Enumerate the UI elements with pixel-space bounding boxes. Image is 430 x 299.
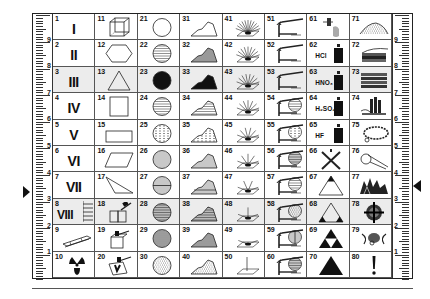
ruler-tick bbox=[36, 215, 46, 216]
ruler-tick bbox=[402, 172, 409, 173]
ruler-tick bbox=[36, 220, 43, 221]
ruler-tick bbox=[402, 71, 409, 72]
ruler-tick bbox=[36, 260, 43, 261]
symbol-cell-8: 8VIII bbox=[53, 199, 95, 225]
ruler-tick bbox=[402, 87, 409, 88]
symbol-cell-22: 22 bbox=[138, 40, 180, 66]
symbol-cell-65: 65HF bbox=[307, 120, 349, 146]
symbol-cell-28: 28 bbox=[138, 199, 180, 225]
ruler-tick bbox=[402, 273, 409, 274]
symbol-cell-11: 11 bbox=[95, 14, 137, 40]
ruler-tick bbox=[36, 31, 43, 32]
symbol-cell-34: 34 bbox=[180, 93, 222, 119]
ruler-tick bbox=[399, 29, 409, 30]
ruler-label: 2 bbox=[394, 222, 398, 229]
roman-numeral-label: IV bbox=[53, 100, 94, 116]
left-ruler: 987654321 bbox=[33, 14, 53, 278]
symbol-cell-21: 21 bbox=[138, 14, 180, 40]
symbol-cell-23: 23 bbox=[138, 67, 180, 93]
ruler-label: 7 bbox=[394, 89, 398, 96]
ruler-label: 3 bbox=[394, 195, 398, 202]
ruler-tick bbox=[402, 239, 409, 240]
symbol-cell-36: 36 bbox=[180, 146, 222, 172]
symbol-cell-6: 6VI bbox=[53, 146, 95, 172]
ruler-tick bbox=[402, 37, 409, 38]
ruler-tick bbox=[36, 162, 46, 163]
roman-numeral-label: I bbox=[53, 21, 94, 37]
ruler-tick bbox=[402, 271, 409, 272]
symbol-cell-56: 56 bbox=[265, 146, 307, 172]
symbol-cell-78: 78 bbox=[350, 199, 392, 225]
symbol-cell-45: 45 bbox=[223, 120, 265, 146]
symbol-cell-72: 72 bbox=[350, 40, 392, 66]
ruler-tick bbox=[402, 124, 409, 125]
ruler-tick bbox=[402, 119, 409, 120]
ruler-tick bbox=[402, 130, 409, 131]
ruler-tick bbox=[402, 183, 409, 184]
ruler-tick bbox=[402, 212, 409, 213]
ruler-tick bbox=[402, 223, 409, 224]
ruler-tick bbox=[36, 114, 43, 115]
ruler-tick bbox=[399, 108, 409, 109]
ruler-tick bbox=[402, 244, 409, 245]
symbol-cell-48: 48 bbox=[223, 199, 265, 225]
ruler-tick bbox=[402, 103, 409, 104]
symbol-cell-76: 76 bbox=[350, 146, 392, 172]
ruler-tick bbox=[36, 119, 43, 120]
ruler-tick bbox=[402, 92, 409, 93]
ruler-tick bbox=[402, 207, 409, 208]
ruler-tick bbox=[36, 77, 43, 78]
ruler-tick bbox=[36, 194, 43, 195]
ruler-tick bbox=[402, 170, 409, 171]
symbol-cell-80: 80 bbox=[350, 252, 392, 278]
ruler-tick bbox=[402, 45, 409, 46]
ruler-tick bbox=[36, 130, 43, 131]
symbol-cell-24: 24 bbox=[138, 93, 180, 119]
symbol-cell-5: 5V bbox=[53, 120, 95, 146]
ruler-tick bbox=[36, 265, 43, 266]
ruler-tick bbox=[36, 135, 46, 136]
ruler-tick bbox=[402, 225, 409, 226]
symbol-cell-50: 50 bbox=[223, 252, 265, 278]
ruler-tick bbox=[402, 90, 409, 91]
ruler-tick bbox=[402, 18, 409, 19]
roman-numeral-label: II bbox=[53, 47, 94, 63]
symbol-cell-75: 75 bbox=[350, 120, 392, 146]
ruler-tick bbox=[36, 249, 43, 250]
symbol-cell-12: 12 bbox=[95, 40, 137, 66]
symbol-cell-40: 40 bbox=[180, 252, 222, 278]
symbol-grid: 1I2II3III4IV5V6VI7VII8VIII91011121314151… bbox=[53, 14, 392, 278]
symbol-cell-41: 41 bbox=[223, 14, 265, 40]
ruler-tick bbox=[402, 247, 409, 248]
ruler-tick bbox=[36, 82, 46, 83]
ruler-tick bbox=[36, 231, 43, 232]
ruler-tick bbox=[36, 92, 43, 93]
ruler-tick bbox=[36, 207, 43, 208]
ruler-tick bbox=[36, 167, 43, 168]
ruler-tick bbox=[36, 79, 43, 80]
ruler-label: 5 bbox=[394, 142, 398, 149]
ruler-tick bbox=[36, 111, 43, 112]
ruler-tick bbox=[399, 135, 409, 136]
symbol-cell-13: 13 bbox=[95, 67, 137, 93]
ruler-label: 1 bbox=[47, 248, 51, 255]
symbol-cell-68: 68 bbox=[307, 199, 349, 225]
ruler-tick bbox=[36, 106, 43, 107]
symbol-cell-16: 16 bbox=[95, 146, 137, 172]
ruler-tick bbox=[36, 268, 46, 269]
symbol-cell-14: 14 bbox=[95, 93, 137, 119]
ruler-tick bbox=[36, 71, 43, 72]
ruler-tick bbox=[36, 127, 43, 128]
ruler-tick bbox=[402, 31, 409, 32]
ruler-tick bbox=[36, 263, 43, 264]
symbol-cell-30: 30 bbox=[138, 252, 180, 278]
ruler-tick bbox=[402, 138, 409, 139]
ruler-tick bbox=[36, 225, 43, 226]
ruler-tick bbox=[399, 162, 409, 163]
ruler-tick bbox=[36, 34, 43, 35]
ruler-tick bbox=[36, 108, 46, 109]
symbol-cell-3: 3III bbox=[53, 67, 95, 93]
ruler-tick bbox=[402, 276, 409, 277]
symbol-cell-79: 79 bbox=[350, 225, 392, 251]
ruler-tick bbox=[402, 63, 409, 64]
